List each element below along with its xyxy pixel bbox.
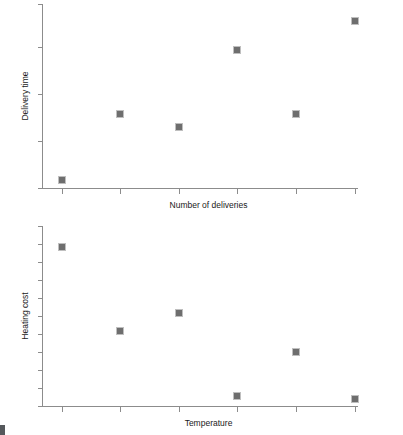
data-point-heating-cost-5 <box>352 396 359 403</box>
data-point-delivery-time-2 <box>176 124 183 131</box>
page-edge-artifact <box>0 425 5 435</box>
y-axis-title-heating-cost: Heating cost <box>20 292 30 340</box>
data-point-heating-cost-3 <box>234 393 241 400</box>
x-axis-title-heating-cost: Temperature <box>185 418 233 428</box>
figure-root: Number of deliveriesDelivery timeTempera… <box>0 0 403 435</box>
data-point-heating-cost-1 <box>117 328 124 335</box>
data-point-heating-cost-0 <box>59 244 66 251</box>
x-axis-title-delivery-time: Number of deliveries <box>170 200 248 210</box>
panel-heating-cost: TemperatureHeating cost <box>20 227 359 429</box>
y-axis-title-delivery-time: Delivery time <box>20 71 30 120</box>
data-point-delivery-time-0 <box>59 177 66 184</box>
data-point-heating-cost-4 <box>293 349 300 356</box>
data-point-delivery-time-4 <box>293 111 300 118</box>
data-point-heating-cost-2 <box>176 310 183 317</box>
scatter-plots-figure: Number of deliveriesDelivery timeTempera… <box>0 0 403 435</box>
data-point-delivery-time-5 <box>352 18 359 25</box>
panel-delivery-time: Number of deliveriesDelivery time <box>20 5 359 211</box>
data-point-delivery-time-1 <box>117 111 124 118</box>
data-point-delivery-time-3 <box>234 47 241 54</box>
